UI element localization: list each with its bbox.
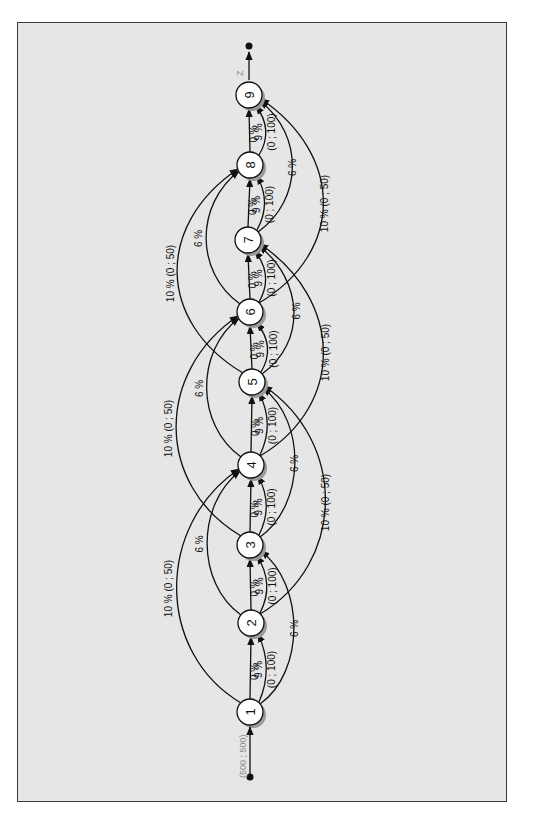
node-6: 6 (237, 299, 266, 328)
edge-label-rate: 6 % (287, 159, 298, 176)
edge-labels-layer: 0 %9 %(0 ; 100)6 %10 % (0 ; 50)0 %9 %(0 … (163, 113, 331, 688)
node-2: 2 (238, 610, 267, 639)
edge-label-rate-bounds: 10 % (0 ; 50) (320, 324, 331, 381)
edge-label-rate: 9 % (254, 577, 265, 594)
edge-label-bounds: (0 ; 100) (266, 651, 277, 688)
node-label: 5 (245, 378, 260, 385)
flow-network-diagram: 0 %9 %(0 ; 100)6 %10 % (0 ; 50)0 %9 %(0 … (0, 0, 544, 821)
edge-label-rate: 6 % (193, 230, 204, 247)
edge-3-6-skip3 (176, 316, 241, 536)
edge-label-bounds: (0 ; 100) (266, 113, 277, 150)
node-9: 9 (236, 82, 265, 111)
edge-label-rate: 6 % (194, 380, 205, 397)
node-8: 8 (237, 152, 266, 181)
node-label: 7 (241, 236, 256, 243)
edge-label-bounds: (0 ; 100) (266, 488, 277, 525)
edge-label-rate-bounds: 10 % (0 ; 50) (163, 560, 174, 617)
edge-label-rate: 6 % (194, 535, 205, 552)
node-label: 6 (243, 308, 258, 315)
edge-label-rate: 6 % (291, 302, 302, 319)
node-label: 3 (243, 541, 258, 548)
node-label: 4 (244, 461, 259, 468)
edge-label-rate: 6 % (289, 455, 300, 472)
edge-label-bounds: (0 ; 100) (268, 330, 279, 367)
edge-1-4-skip3 (177, 469, 241, 703)
node-label: 2 (244, 619, 259, 626)
edge-5-8-skip3 (177, 169, 243, 373)
source-bounds-label: (500 ; 500) (238, 734, 248, 778)
edge-label-rate-bounds: 10 % (0 ; 50) (165, 245, 176, 302)
edge-label-bounds: (0 ; 100) (267, 407, 278, 444)
edge-label-bounds: (0 ; 100) (266, 259, 277, 296)
sink-label: Z (235, 70, 245, 76)
edge-label-rate: 9 % (253, 123, 264, 140)
edge-label-bounds: (0 ; 100) (264, 186, 275, 223)
edge-label-rate: 9 % (253, 661, 264, 678)
edge-label-rate-bounds: 10 % (0 ; 50) (319, 175, 330, 232)
edge-label-rate: 9 % (253, 269, 264, 286)
node-label: 9 (242, 91, 257, 98)
node-label: 1 (243, 708, 258, 715)
edge-label-rate: 6 % (289, 620, 300, 637)
edge-label-rate: 9 % (254, 417, 265, 434)
edge-label-rate-bounds: 10 % (0 ; 50) (163, 400, 174, 457)
node-label: 8 (243, 161, 258, 168)
sink-terminal-dot (246, 43, 253, 50)
edge-label-rate: 9 % (255, 340, 266, 357)
edge-label-rate-bounds: 10 % (0 ; 50) (320, 474, 331, 531)
edge-label-rate: 9 % (253, 498, 264, 515)
node-4: 4 (238, 452, 267, 481)
edge-label-rate: 9 % (251, 196, 262, 213)
edge-label-bounds: (0 ; 100) (267, 567, 278, 604)
